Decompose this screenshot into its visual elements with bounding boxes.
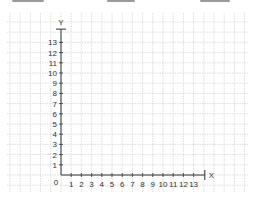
grid-lines <box>7 13 248 192</box>
x-tick-label: 2 <box>79 180 84 189</box>
y-tick-label: 3 <box>53 140 58 149</box>
x-tick-label: 11 <box>169 180 178 189</box>
coordinate-grid: 12345678910111213123456789101112130XY <box>0 0 253 198</box>
y-tick-label: 13 <box>48 38 57 47</box>
x-tick-label: 8 <box>140 180 145 189</box>
axes <box>56 29 205 180</box>
y-tick-label: 5 <box>53 120 58 129</box>
x-tick-label: 13 <box>189 180 198 189</box>
x-tick-label: 12 <box>179 180 188 189</box>
x-tick-label: 3 <box>89 180 94 189</box>
y-tick-label: 9 <box>53 79 58 88</box>
y-tick-label: 8 <box>53 89 58 98</box>
x-tick-label: 10 <box>159 180 168 189</box>
y-tick-label: 7 <box>53 100 58 109</box>
y-tick-label: 1 <box>53 161 58 170</box>
y-tick-label: 10 <box>48 69 57 78</box>
y-tick-label: 11 <box>49 59 58 68</box>
x-tick-label: 1 <box>69 180 74 189</box>
x-tick-label: 6 <box>120 180 125 189</box>
y-tick-label: 2 <box>53 151 58 160</box>
origin-label: 0 <box>54 178 59 187</box>
y-tick-label: 12 <box>48 49 57 58</box>
x-tick-label: 7 <box>130 180 135 189</box>
y-tick-label: 6 <box>53 110 58 119</box>
x-tick-label: 4 <box>100 180 105 189</box>
x-tick-label: 5 <box>110 180 115 189</box>
x-tick-label: 9 <box>151 180 156 189</box>
y-tick-label: 4 <box>53 130 58 139</box>
y-axis-label: Y <box>58 18 64 27</box>
x-axis-label: X <box>209 171 215 180</box>
